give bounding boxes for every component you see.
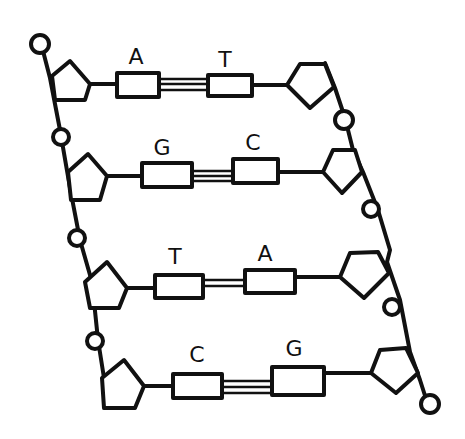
phosphate-icon [53, 129, 69, 145]
base-pair-3: T A [85, 241, 389, 308]
base-left [155, 275, 203, 298]
sugar-icon [102, 360, 144, 408]
phosphate-icon [335, 111, 353, 129]
phosphate-icon [384, 299, 400, 315]
sugar-icon [68, 154, 107, 200]
base-right [208, 75, 252, 96]
base-pair-4: C G [102, 336, 418, 408]
sugar-icon [52, 61, 90, 100]
base-label-left: T [167, 244, 182, 269]
sugar-icon [85, 262, 127, 308]
base-label-left: C [189, 342, 204, 367]
base-label-right: T [217, 47, 232, 72]
phosphate-icon [87, 333, 103, 349]
base-right [233, 159, 278, 183]
base-right [272, 367, 324, 395]
dna-diagram: A T G C T A C [0, 0, 465, 439]
phosphate-icon [31, 35, 49, 53]
base-left [142, 163, 192, 187]
sugar-icon [340, 252, 389, 298]
base-left [117, 73, 159, 97]
phosphate-icon [69, 230, 85, 246]
base-label-right: G [285, 336, 302, 361]
base-pair-2: G C [68, 130, 362, 200]
base-right [245, 270, 295, 293]
base-label-right: C [245, 130, 260, 155]
base-pair-1: A T [52, 44, 334, 108]
base-label-left: G [153, 135, 170, 160]
base-label-right: A [257, 241, 272, 266]
base-label-left: A [128, 44, 143, 69]
phosphate-icon [421, 395, 439, 413]
sugar-icon [371, 348, 418, 393]
sugar-icon [323, 150, 362, 193]
phosphate-icon [363, 201, 379, 217]
sugar-icon [287, 64, 334, 108]
base-left [173, 374, 222, 398]
